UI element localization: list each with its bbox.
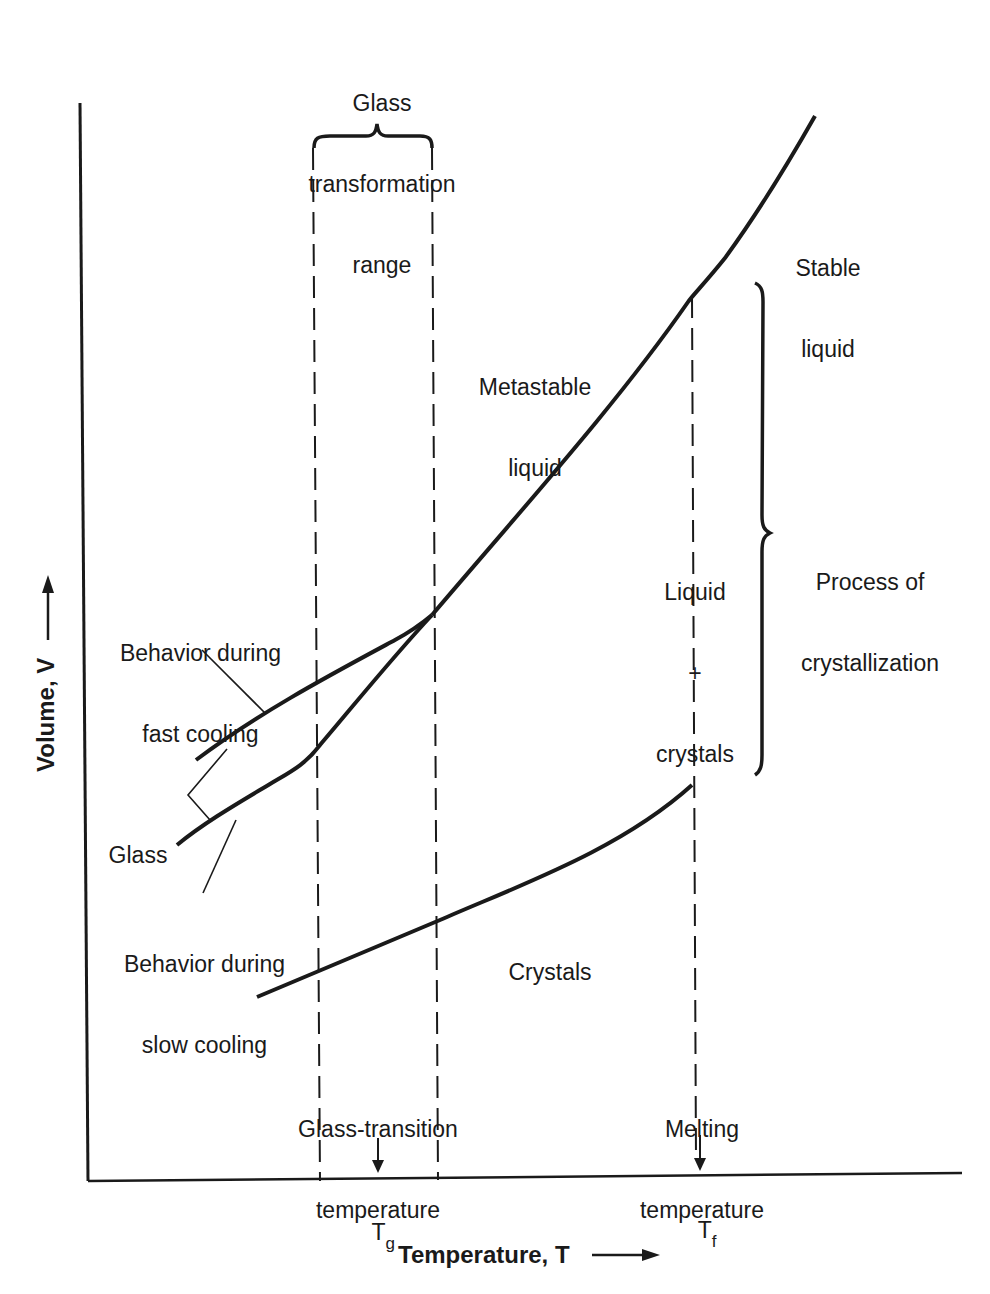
label-stable-liquid: Stable liquid xyxy=(768,201,888,390)
label-process-line1: Process of xyxy=(770,569,970,596)
tick-tf: Tf xyxy=(676,1190,726,1246)
tick-tg-main: T xyxy=(371,1219,385,1245)
x-axis-label: Temperature, T xyxy=(398,1241,588,1268)
label-melting-line1: Melting xyxy=(612,1116,792,1143)
label-stable-liquid-line1: Stable xyxy=(768,255,888,282)
title-line-1: Glass xyxy=(282,90,482,117)
label-glass: Glass xyxy=(98,788,178,896)
x-axis xyxy=(88,1173,962,1181)
label-slow-cooling-line1: Behavior during xyxy=(102,951,307,978)
label-crystals-line: crystals xyxy=(640,741,750,768)
label-metastable-line1: Metastable xyxy=(450,374,620,401)
label-slow-cooling-line2: slow cooling xyxy=(102,1032,307,1059)
label-fast-cooling: Behavior during fast cooling xyxy=(98,586,303,775)
label-liquid-plus-crystals: Liquid + crystals xyxy=(640,525,750,795)
title-line-2: transformation xyxy=(282,171,482,198)
title-line-3: range xyxy=(282,252,482,279)
title-glass-transformation-range: Glass transformation range xyxy=(282,36,482,306)
label-plus-line: + xyxy=(640,660,750,687)
label-glass-transition-line1: Glass-transition xyxy=(268,1116,488,1143)
y-axis-arrow-icon xyxy=(42,575,54,640)
label-glass-text: Glass xyxy=(98,842,178,869)
label-metastable-line2: liquid xyxy=(450,455,620,482)
crystals-curve xyxy=(257,785,692,997)
label-liquid-line: Liquid xyxy=(640,579,750,606)
tick-tg-sub: g xyxy=(385,1234,394,1253)
label-fast-cooling-line1: Behavior during xyxy=(98,640,303,667)
y-axis-label: Volume, V xyxy=(32,658,60,772)
label-process-line2: crystallization xyxy=(770,650,970,677)
label-slow-cooling: Behavior during slow cooling xyxy=(102,897,307,1086)
label-stable-liquid-line2: liquid xyxy=(768,336,888,363)
label-fast-cooling-line2: fast cooling xyxy=(98,721,303,748)
y-axis xyxy=(80,103,88,1181)
tick-tg: Tg xyxy=(352,1192,402,1248)
label-metastable-liquid: Metastable liquid xyxy=(450,320,620,509)
slow-cooling-leader xyxy=(203,820,236,893)
label-crystals: Crystals xyxy=(490,905,610,1013)
tick-tf-main: T xyxy=(698,1217,712,1243)
label-process-of-crystallization: Process of crystallization xyxy=(770,515,970,704)
label-crystals-text: Crystals xyxy=(490,959,610,986)
tick-tf-sub: f xyxy=(712,1232,717,1251)
